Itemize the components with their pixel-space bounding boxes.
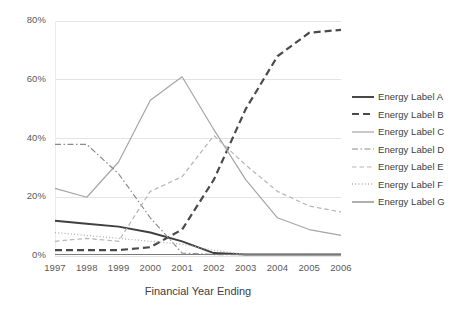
legend-item-label: Energy Label E (378, 161, 444, 172)
x-tick-label: 1997 (38, 262, 72, 273)
legend-line-swatch (352, 127, 374, 137)
legend-item-label: Energy Label G (378, 196, 445, 207)
series-line-f (55, 233, 341, 255)
legend-item-g[interactable]: Energy Label G (352, 193, 467, 211)
legend-item-e[interactable]: Energy Label E (352, 158, 467, 176)
x-tick-label: 2000 (133, 262, 167, 273)
legend-line-swatch (352, 162, 374, 172)
y-tick-label: 80% (6, 14, 46, 25)
x-tick-label: 2002 (197, 262, 231, 273)
y-tick-label: 60% (6, 73, 46, 84)
y-tick-label: 40% (6, 132, 46, 143)
x-tick-label: 2004 (260, 262, 294, 273)
series-line-d (55, 144, 341, 254)
legend-item-c[interactable]: Energy Label C (352, 123, 467, 141)
x-tick-label: 1998 (70, 262, 104, 273)
legend-line-swatch (352, 109, 374, 119)
y-tick-label: 20% (6, 190, 46, 201)
legend-item-label: Energy Label A (378, 91, 443, 102)
series-line-b (55, 30, 341, 250)
legend-item-label: Energy Label D (378, 144, 444, 155)
legend-line-swatch (352, 179, 374, 189)
x-tick-label: 2001 (165, 262, 199, 273)
line-chart: 0%20%40%60%80% 1997199819992000200120022… (0, 0, 467, 315)
legend-item-d[interactable]: Energy Label D (352, 141, 467, 159)
x-tick-label: 2005 (292, 262, 326, 273)
legend-item-label: Energy Label C (378, 126, 444, 137)
x-tick-label: 2003 (229, 262, 263, 273)
legend-item-label: Energy Label B (378, 109, 444, 120)
legend-item-a[interactable]: Energy Label A (352, 88, 467, 106)
chart-legend: Energy Label AEnergy Label BEnergy Label… (352, 88, 467, 211)
x-tick-label: 1999 (102, 262, 136, 273)
legend-line-swatch (352, 92, 374, 102)
legend-item-b[interactable]: Energy Label B (352, 106, 467, 124)
legend-line-swatch (352, 197, 374, 207)
x-tick-label: 2006 (324, 262, 358, 273)
legend-item-f[interactable]: Energy Label F (352, 176, 467, 194)
legend-item-label: Energy Label F (378, 179, 443, 190)
x-axis-title: Financial Year Ending (55, 285, 341, 297)
y-tick-label: 0% (6, 249, 46, 260)
legend-line-swatch (352, 144, 374, 154)
